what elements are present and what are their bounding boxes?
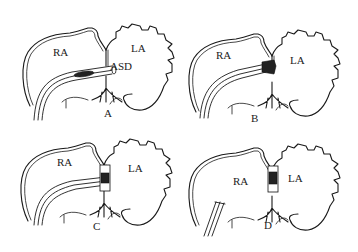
- panel-c-ra-label: RA: [57, 157, 72, 168]
- panel-d-label: D: [264, 220, 272, 231]
- panel-a-la-label: LA: [131, 43, 146, 54]
- panel-c-la-label: LA: [128, 163, 143, 174]
- panel-b-la-label: LA: [290, 55, 305, 66]
- panel-b-heart: [189, 30, 340, 118]
- panel-a-label: A: [104, 108, 112, 119]
- panel-b-label: B: [251, 113, 258, 124]
- panel-a-heart: [23, 24, 174, 120]
- panel-a-ra-label: RA: [53, 47, 68, 58]
- panel-b-ra-label: RA: [216, 50, 231, 61]
- panel-c-label: C: [93, 221, 100, 232]
- diagram-drawing: [0, 0, 358, 252]
- panel-a-asd-label: ASD: [110, 61, 132, 72]
- panel-d-ra-label: RA: [233, 176, 248, 187]
- panel-c-heart: [21, 139, 172, 225]
- asd-closure-diagram: RA LA ASD A RA LA B RA LA C RA LA D: [0, 0, 358, 252]
- panel-d-la-label: LA: [288, 173, 303, 184]
